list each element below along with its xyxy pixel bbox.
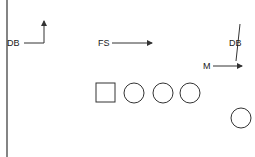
offensive-formation	[96, 83, 251, 128]
db-left-label: DB	[7, 38, 20, 48]
m-label: M	[203, 61, 211, 71]
offensive-player-circle	[231, 108, 251, 128]
offensive-player-circle	[153, 83, 173, 103]
db-right-label: DB	[229, 38, 242, 48]
routes	[24, 21, 242, 66]
offensive-player-circle	[180, 83, 200, 103]
fs-label: FS	[98, 38, 110, 48]
play-diagram: DBFSDBM	[0, 0, 255, 157]
db-left-route-arrow	[24, 21, 44, 43]
center-square	[96, 83, 115, 102]
play-diagram-svg: DBFSDBM	[0, 0, 255, 157]
offensive-player-circle	[124, 83, 144, 103]
